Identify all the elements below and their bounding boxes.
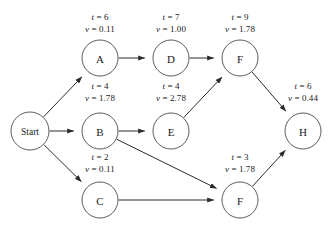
annotation-variance: v = 1.78 [200, 24, 280, 36]
annotation-duration: t = 6 [263, 81, 335, 93]
activity-network-diagram: StartADFBEHCF t = 6v = 0.11t = 7v = 1.00… [0, 0, 335, 230]
annotation-variance: v = 1.00 [131, 24, 211, 36]
node-f1[interactable]: F [222, 40, 258, 76]
node-label-b: B [96, 126, 103, 138]
node-label-a: A [96, 53, 104, 65]
node-label-d: D [167, 53, 175, 65]
annotation-duration: t = 9 [200, 12, 280, 24]
node-label-start: Start [21, 127, 39, 137]
node-d[interactable]: D [153, 40, 189, 76]
annotation-duration: t = 6 [60, 12, 140, 24]
annotation-variance: v = 0.11 [60, 24, 140, 36]
annotation-duration: t = 4 [131, 81, 211, 93]
annotation-variance: v = 1.78 [60, 93, 140, 105]
node-e[interactable]: E [153, 113, 189, 149]
node-start[interactable]: Start [11, 112, 49, 150]
nodes-layer: StartADFBEHCF [11, 40, 321, 218]
annotation-duration: t = 2 [60, 152, 140, 164]
annotation-duration: t = 7 [131, 12, 211, 24]
annotation-label-c: t = 2v = 0.11 [60, 152, 140, 176]
annotation-variance: v = 0.44 [263, 93, 335, 105]
node-label-h: H [299, 126, 307, 138]
node-f2[interactable]: F [222, 182, 258, 218]
annotation-duration: t = 4 [60, 81, 140, 93]
node-label-f1: F [237, 53, 243, 65]
annotation-label-a: t = 6v = 0.11 [60, 12, 140, 36]
node-label-e: E [168, 126, 175, 138]
annotation-duration: t = 3 [200, 152, 280, 164]
node-b[interactable]: B [82, 113, 118, 149]
annotation-label-f2: t = 3v = 1.78 [200, 152, 280, 176]
node-c[interactable]: C [82, 182, 118, 218]
annotation-variance: v = 1.78 [200, 164, 280, 176]
annotation-label-f1: t = 9v = 1.78 [200, 12, 280, 36]
node-label-f2: F [237, 195, 243, 207]
node-label-c: C [96, 195, 103, 207]
annotation-variance: v = 2.78 [131, 93, 211, 105]
annotation-label-d: t = 7v = 1.00 [131, 12, 211, 36]
annotation-label-e: t = 4v = 2.78 [131, 81, 211, 105]
node-a[interactable]: A [82, 40, 118, 76]
annotation-label-b: t = 4v = 1.78 [60, 81, 140, 105]
node-h[interactable]: H [285, 113, 321, 149]
annotation-label-h: t = 6v = 0.44 [263, 81, 335, 105]
annotation-variance: v = 0.11 [60, 164, 140, 176]
